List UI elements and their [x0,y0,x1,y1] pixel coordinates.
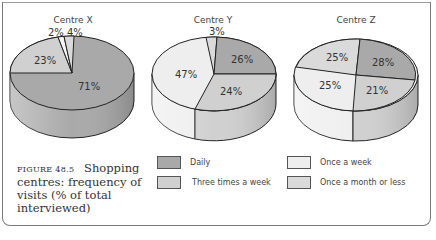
pie-centre-x: 23% 71% 2% 4% [10,27,134,138]
legend-swatch-daily [157,156,181,169]
legend-label-once-month: Once a month or less [320,178,405,187]
legend-label-three-times: Three times a week [192,178,271,187]
legend-item-daily: Daily [157,156,210,169]
legend-swatch-once-month [287,176,311,189]
slice-label-x-week: 2% [48,27,64,38]
legend-item-once-week: Once a week [287,156,372,169]
caption-line-1: Shopping [84,161,139,175]
legend-item-once-month: Once a month or less [287,176,405,189]
slice-label-y-three: 24% [220,86,242,97]
slice-label-x-daily: 71% [78,81,100,92]
legend-swatch-once-week [287,156,311,169]
slice-label-z-month: 25% [326,52,348,63]
pie-centre-z: 25% 28% 25% 21% [294,39,418,141]
slice-label-z-three: 21% [366,85,388,96]
figure-caption: FIGURE 48.5 Shopping centres: frequency … [17,162,177,215]
pie-centre-y: 47% 26% 24% 3% [152,26,276,141]
legend-label-daily: Daily [190,158,210,167]
slice-label-z-week: 25% [319,80,341,91]
legend-item-three-times: Three times a week [157,176,271,189]
caption-line-2: centres: frequency of [17,175,141,189]
legend-swatch-three-times [157,176,181,189]
slice-label-z-daily: 28% [372,57,394,68]
figure-number: FIGURE 48.5 [17,165,74,174]
slice-label-y-daily: 26% [231,54,253,65]
slice-label-x-month: 4% [67,27,83,38]
slice-label-x-three: 23% [34,55,56,66]
legend-label-once-week: Once a week [320,158,372,167]
slice-label-y-week: 47% [175,69,197,80]
slice-label-y-month: 3% [209,26,225,37]
caption-line-3: visits (% of total interviewed) [17,188,112,215]
